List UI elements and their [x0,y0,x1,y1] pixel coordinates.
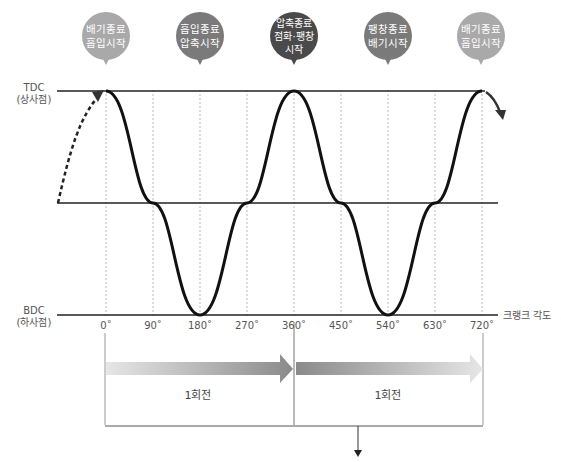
bubble-line: 흡입시작 [461,36,501,50]
bubble-line: 팽창종료 [368,22,408,36]
bubble-line: 압축종료 [276,17,312,30]
tick-label: 630˚ [415,320,455,331]
tick-label: 0˚ [86,320,126,331]
tick-label: 720˚ [462,320,502,331]
bubble-line: 배기시작 [368,36,408,50]
bubble-line: 시작 [285,43,303,56]
bubble-line: 배기종료 [461,22,501,36]
stage-bubble-expansion-end: 팽창종료 배기시작 [364,12,412,60]
stage-bubble-compression-end: 압축종료 점화·팽창 시작 [270,12,318,60]
bdc-text: BDC [14,305,54,317]
rotation-arrow-1 [106,354,293,383]
piston-cycle-diagram [0,0,561,462]
exit-arrow [486,92,500,112]
tdc-label: TDC (상사점) [14,82,54,106]
bubble-line: 흡입시작 [86,36,126,50]
bubble-line: 압축시작 [180,36,220,50]
bubble-line: 점화·팽창 [274,30,313,43]
rotation-label-1: 1회전 [168,386,228,402]
bubble-line: 흡입종료 [180,22,220,36]
tick-label: 180˚ [180,320,220,331]
down-arrow-icon [354,450,362,457]
bdc-label: BDC (하사점) [14,305,54,329]
gridlines [106,90,482,318]
tick-label: 90˚ [133,320,173,331]
tdc-text: TDC [14,82,54,94]
tdc-subtext: (상사점) [14,94,54,106]
lead-in-arrow [58,95,100,203]
tick-label: 270˚ [227,320,267,331]
tick-label: 360˚ [274,320,314,331]
stage-bubble-exhaust-end-2: 배기종료 흡입시작 [457,12,505,60]
x-axis-title: 크랭크 각도 [503,310,561,322]
stage-bubble-exhaust-end: 배기종료 흡입시작 [82,12,130,60]
tick-label: 450˚ [321,320,361,331]
exit-arrowhead-icon [495,110,506,120]
tick-label: 540˚ [368,320,408,331]
stage-bubble-intake-end: 흡입종료 압축시작 [176,12,224,60]
rotation-arrow-2 [296,354,483,383]
bubble-line: 배기종료 [86,22,126,36]
bdc-subtext: (하사점) [14,317,54,329]
lead-in-arrowhead-icon [92,90,104,102]
rotation-label-2: 1회전 [358,386,418,402]
